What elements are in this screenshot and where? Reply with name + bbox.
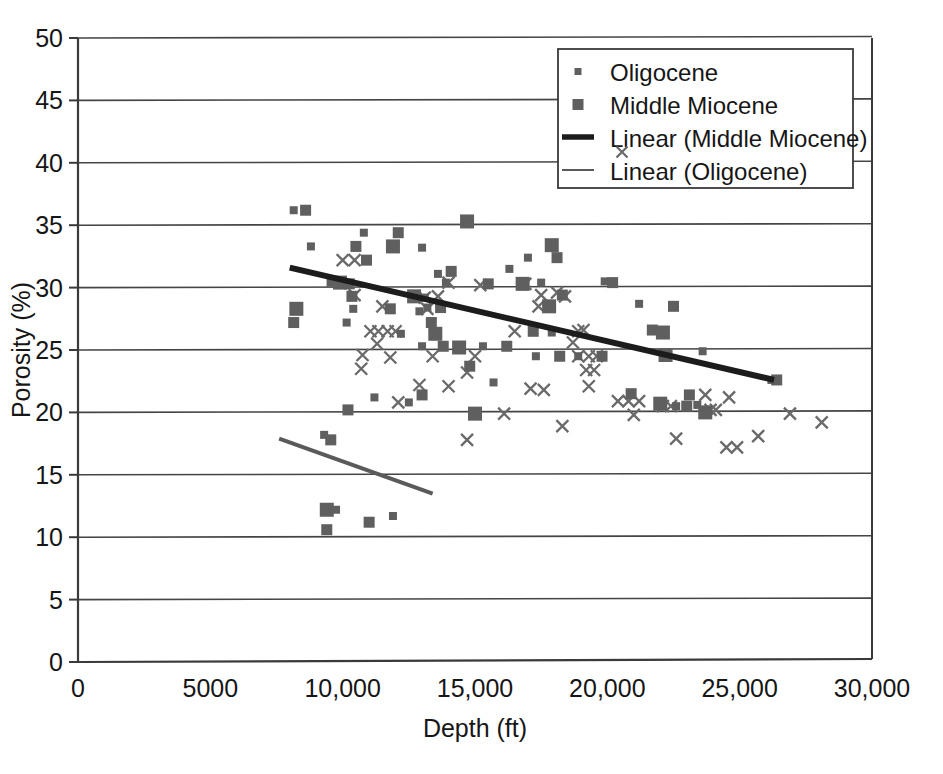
- data-point-square: [452, 341, 466, 355]
- y-axis-title: Porosity (%): [7, 282, 35, 418]
- data-point-square: [300, 205, 311, 216]
- data-point-square: [597, 351, 608, 362]
- data-point-square: [418, 342, 426, 350]
- data-point-square: [442, 279, 450, 287]
- data-point-square: [349, 305, 357, 313]
- data-point-square: [385, 303, 396, 314]
- y-tick-label-50: 50: [35, 24, 63, 52]
- y-tick-label-10: 10: [35, 523, 63, 551]
- data-point-square: [552, 252, 563, 263]
- porosity-depth-scatter-chart: 05101520253035404550 0500010,00015,00020…: [0, 0, 943, 774]
- data-point-square: [397, 330, 405, 338]
- data-point-square: [607, 277, 618, 288]
- data-point-square: [405, 398, 413, 406]
- data-point-square: [699, 347, 707, 355]
- y-tick-label-15: 15: [35, 461, 63, 489]
- legend-label-1[interactable]: Middle Miocene: [610, 92, 778, 119]
- data-point-square: [418, 244, 426, 252]
- data-point-square: [479, 342, 487, 350]
- data-point-square: [653, 397, 667, 411]
- data-point-square: [426, 317, 437, 328]
- data-point-square: [321, 524, 332, 535]
- data-point-square: [423, 304, 431, 312]
- x-tick-label-10000: 10,000: [304, 674, 380, 702]
- y-tick-label-25: 25: [35, 336, 63, 364]
- y-tick-label-20: 20: [35, 398, 63, 426]
- data-point-square: [417, 389, 428, 400]
- legend-marker-square: [573, 99, 584, 110]
- data-point-square: [557, 290, 568, 301]
- data-point-square: [468, 407, 482, 421]
- data-point-square: [325, 434, 336, 445]
- data-point-square: [516, 277, 530, 291]
- data-point-square: [684, 389, 695, 400]
- data-point-square: [554, 351, 565, 362]
- data-point-square: [537, 279, 545, 287]
- data-point-square: [288, 317, 299, 328]
- legend-marker-small-square: [575, 68, 582, 75]
- data-point-square: [532, 352, 540, 360]
- legend-label-0[interactable]: Oligocene: [610, 59, 718, 86]
- data-point-square: [681, 401, 692, 412]
- data-point-square: [698, 405, 712, 419]
- data-point-square: [389, 512, 397, 520]
- data-point-square: [370, 393, 378, 401]
- y-axis-ticks: 05101520253035404550: [35, 24, 78, 676]
- data-point-square: [464, 361, 475, 372]
- data-point-square: [289, 302, 303, 316]
- data-point-square: [434, 270, 442, 278]
- x-axis-ticks: 0500010,00015,00020,00025,00030,000: [71, 674, 910, 702]
- legend-label-3[interactable]: Linear (Oligocene): [610, 158, 807, 185]
- x-tick-label-15000: 15,000: [437, 674, 513, 702]
- data-point-square: [343, 319, 351, 327]
- data-point-square: [364, 517, 375, 528]
- data-point-square: [386, 239, 400, 253]
- data-point-square: [307, 242, 315, 250]
- x-tick-label-0: 0: [71, 674, 85, 702]
- data-point-square: [574, 352, 582, 360]
- data-point-square: [438, 341, 449, 352]
- y-tick-label-40: 40: [35, 149, 63, 177]
- legend[interactable]: OligoceneMiddle MioceneLinear (Middle Mi…: [558, 49, 867, 188]
- y-tick-label-35: 35: [35, 211, 63, 239]
- x-tick-label-5000: 5000: [183, 674, 239, 702]
- data-point-square: [483, 278, 494, 289]
- data-point-square: [346, 291, 357, 302]
- data-point-square: [501, 341, 512, 352]
- data-point-square: [350, 241, 361, 252]
- data-point-square: [656, 326, 670, 340]
- y-tick-label-45: 45: [35, 86, 63, 114]
- data-point-square: [460, 214, 474, 228]
- x-axis-title: Depth (ft): [423, 714, 527, 742]
- gridline-y-50: [78, 37, 872, 39]
- data-point-square: [505, 265, 513, 273]
- x-tick-label-25000: 25,000: [701, 674, 777, 702]
- y-tick-label-0: 0: [49, 648, 63, 676]
- data-point-square: [672, 402, 680, 410]
- data-point-square: [342, 404, 353, 415]
- chart-root: 05101520253035404550 0500010,00015,00020…: [0, 0, 943, 774]
- data-point-square: [668, 301, 679, 312]
- data-point-square: [490, 378, 498, 386]
- data-point-square: [545, 238, 559, 252]
- data-point-square: [290, 206, 298, 214]
- legend-label-2[interactable]: Linear (Middle Miocene): [610, 125, 867, 152]
- data-point-square: [542, 299, 556, 313]
- data-point-square: [626, 388, 637, 399]
- data-point-square: [446, 266, 457, 277]
- data-point-square: [524, 254, 532, 262]
- data-point-square: [320, 503, 334, 517]
- y-tick-label-5: 5: [49, 586, 63, 614]
- x-tick-label-30000: 30,000: [834, 674, 910, 702]
- data-point-square: [635, 300, 643, 308]
- data-point-square: [393, 227, 404, 238]
- data-point-square: [415, 307, 423, 315]
- data-point-square: [361, 255, 372, 266]
- data-point-square: [332, 506, 340, 514]
- data-point-square: [428, 327, 442, 341]
- data-point-square: [360, 229, 368, 237]
- y-tick-label-30: 30: [35, 274, 63, 302]
- x-tick-label-20000: 20,000: [569, 674, 645, 702]
